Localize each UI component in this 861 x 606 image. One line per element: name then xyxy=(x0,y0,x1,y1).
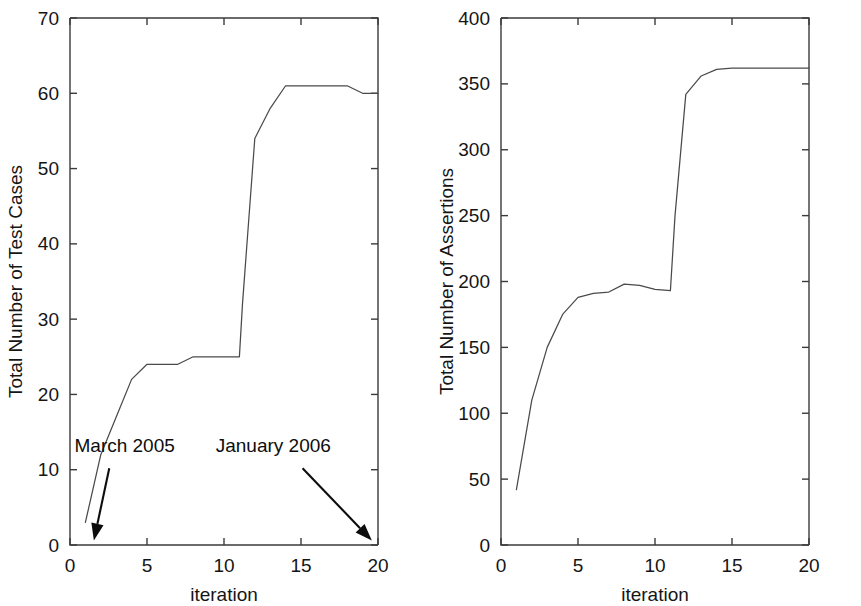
y-axis-tick-label: 200 xyxy=(458,271,490,292)
data-series-line xyxy=(85,86,378,523)
annotation-label: January 2006 xyxy=(216,435,331,456)
y-axis-tick-label: 20 xyxy=(38,384,59,405)
x-axis-tick-label: 0 xyxy=(496,555,507,576)
x-axis-tick-label: 15 xyxy=(290,555,311,576)
x-axis-tick-label: 20 xyxy=(798,555,819,576)
y-axis-tick-label: 300 xyxy=(458,139,490,160)
figure-container: 01020304050607005101520iterationTotal Nu… xyxy=(0,0,861,606)
line-chart-test-cases: 01020304050607005101520iterationTotal Nu… xyxy=(0,0,430,606)
y-axis-tick-label: 400 xyxy=(458,8,490,29)
data-series-line xyxy=(516,68,809,490)
y-axis-tick-label: 350 xyxy=(458,73,490,94)
x-axis-tick-label: 15 xyxy=(721,555,742,576)
annotation-arrow-head xyxy=(91,523,103,541)
line-chart-assertions: 05010015020025030035040005101520iteratio… xyxy=(431,0,861,606)
y-axis-tick-label: 50 xyxy=(469,469,490,490)
annotation-arrow-shaft xyxy=(303,468,361,528)
x-axis-title: iteration xyxy=(621,584,689,605)
chart-panel-test-cases: 01020304050607005101520iterationTotal Nu… xyxy=(0,0,430,606)
chart-panel-assertions: 05010015020025030035040005101520iteratio… xyxy=(431,0,861,606)
y-axis-tick-label: 250 xyxy=(458,205,490,226)
axis-spines xyxy=(501,18,809,545)
x-axis-tick-label: 5 xyxy=(573,555,584,576)
x-axis-tick-label: 0 xyxy=(65,555,76,576)
x-axis-tick-label: 10 xyxy=(213,555,234,576)
y-axis-tick-label: 60 xyxy=(38,83,59,104)
y-axis-tick-label: 30 xyxy=(38,309,59,330)
x-axis-tick-label: 10 xyxy=(644,555,665,576)
y-axis-title: Total Number of Assertions xyxy=(436,168,457,395)
y-axis-tick-label: 150 xyxy=(458,337,490,358)
axis-box-top-right xyxy=(70,18,378,545)
annotation-label: March 2005 xyxy=(74,435,174,456)
x-axis-title: iteration xyxy=(190,584,258,605)
y-axis-tick-label: 100 xyxy=(458,403,490,424)
y-axis-tick-label: 70 xyxy=(38,8,59,29)
annotation-arrow-shaft xyxy=(97,468,109,524)
y-axis-tick-label: 10 xyxy=(38,459,59,480)
axis-spines xyxy=(70,18,378,545)
y-axis-tick-label: 0 xyxy=(48,535,59,556)
axis-box-top-right xyxy=(501,18,809,545)
y-axis-tick-label: 0 xyxy=(479,535,490,556)
y-axis-tick-label: 50 xyxy=(38,158,59,179)
x-axis-tick-label: 20 xyxy=(367,555,388,576)
x-axis-tick-label: 5 xyxy=(142,555,153,576)
y-axis-tick-label: 40 xyxy=(38,233,59,254)
y-axis-title: Total Number of Test Cases xyxy=(5,165,26,398)
